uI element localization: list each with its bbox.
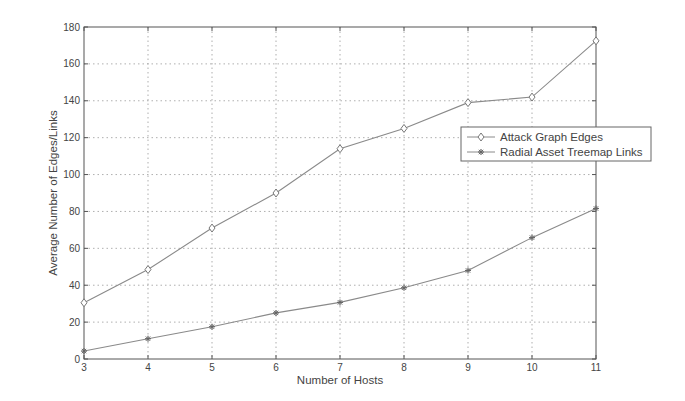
y-tick-label: 140	[63, 95, 80, 106]
axis-ticks: 34567891011020406080100120140160180	[63, 22, 601, 374]
grid-lines	[84, 27, 596, 359]
data-point	[273, 310, 279, 316]
data-point	[337, 145, 343, 153]
y-tick-label: 40	[69, 280, 81, 291]
y-tick-label: 100	[63, 169, 80, 180]
y-tick-label: 80	[69, 206, 81, 217]
legend-label: Radial Asset Treemap Links	[500, 146, 643, 158]
data-point	[81, 348, 87, 354]
data-point	[401, 285, 407, 291]
x-tick-label: 4	[145, 362, 151, 373]
y-tick-label: 60	[69, 243, 81, 254]
data-point	[465, 267, 471, 273]
data-point	[337, 299, 343, 305]
x-tick-label: 3	[81, 362, 87, 373]
data-point	[273, 189, 279, 197]
data-point	[529, 93, 535, 101]
data-point	[465, 99, 471, 107]
asterisk-marker-icon	[478, 149, 484, 155]
data-point	[593, 205, 599, 211]
y-tick-label: 0	[74, 354, 80, 365]
x-tick-label: 6	[273, 362, 279, 373]
x-tick-label: 10	[526, 362, 538, 373]
x-tick-label: 9	[465, 362, 471, 373]
y-tick-label: 120	[63, 132, 80, 143]
data-point	[209, 324, 215, 330]
data-point	[401, 124, 407, 132]
data-point	[529, 235, 535, 241]
x-tick-label: 11	[591, 362, 602, 373]
x-tick-label: 5	[209, 362, 215, 373]
x-tick-label: 8	[401, 362, 407, 373]
y-tick-label: 20	[69, 317, 81, 328]
line-chart: 34567891011020406080100120140160180 Numb…	[0, 0, 685, 401]
data-point	[145, 336, 151, 342]
legend-label: Attack Graph Edges	[500, 131, 603, 143]
y-tick-label: 160	[63, 58, 80, 69]
data-point	[145, 266, 151, 274]
x-tick-label: 7	[337, 362, 343, 373]
y-axis-title: Average Number of Edges/Links	[47, 110, 59, 276]
data-point	[209, 224, 215, 232]
data-point	[81, 299, 87, 307]
legend: Attack Graph Edges Radial Asset Treemap …	[461, 127, 651, 161]
x-axis-title: Number of Hosts	[297, 374, 384, 386]
data-point	[593, 37, 599, 45]
y-tick-label: 180	[63, 22, 80, 33]
